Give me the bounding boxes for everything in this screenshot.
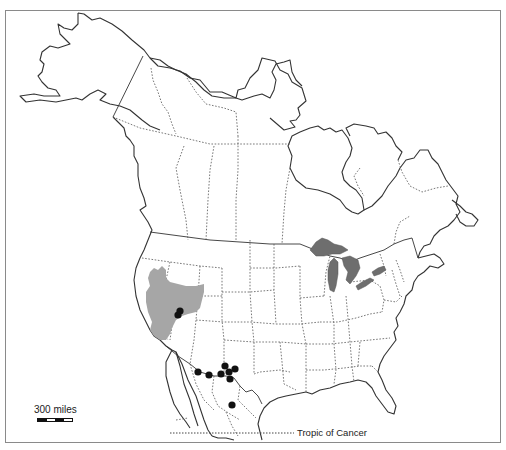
alaska-coastline <box>20 13 306 130</box>
occurrence-dot <box>228 401 235 408</box>
baffin-coastline <box>346 124 402 160</box>
province-borders <box>113 68 448 244</box>
atlantic-coastline <box>306 282 414 414</box>
lake-michigan <box>328 258 338 292</box>
occurrence-dot <box>174 311 181 318</box>
scale-segment <box>47 419 56 421</box>
occurrence-dot <box>221 362 228 369</box>
scale-segment <box>55 419 64 421</box>
lake-ontario <box>372 266 386 276</box>
occurrence-dot <box>226 375 233 382</box>
labrador-coastline <box>364 150 478 258</box>
baja-coastline <box>166 350 198 428</box>
hudson-bay-coastline <box>288 126 364 214</box>
north-america-map <box>0 0 506 450</box>
scale-label: 300 miles <box>34 404 77 415</box>
us-mexico-border <box>166 346 262 404</box>
gulf-coastline <box>212 392 306 440</box>
scale-bar <box>37 418 73 422</box>
occurrence-dot <box>205 371 212 378</box>
lake-superior <box>310 238 348 256</box>
scale-segment <box>38 419 47 421</box>
lake-erie <box>356 278 374 290</box>
scale-segment <box>64 419 73 421</box>
alaska-canada-border <box>113 56 143 117</box>
occurrence-points <box>174 307 238 408</box>
lake-huron <box>342 256 360 284</box>
tropic-of-cancer-label: Tropic of Cancer <box>297 427 367 438</box>
species-range-area <box>146 266 204 340</box>
occurrence-dot <box>194 368 201 375</box>
occurrence-dot <box>225 368 232 375</box>
maritimes-coastline <box>414 254 444 282</box>
occurrence-dot <box>217 370 224 377</box>
us-canada-border <box>150 232 418 262</box>
great-lakes <box>310 238 386 292</box>
